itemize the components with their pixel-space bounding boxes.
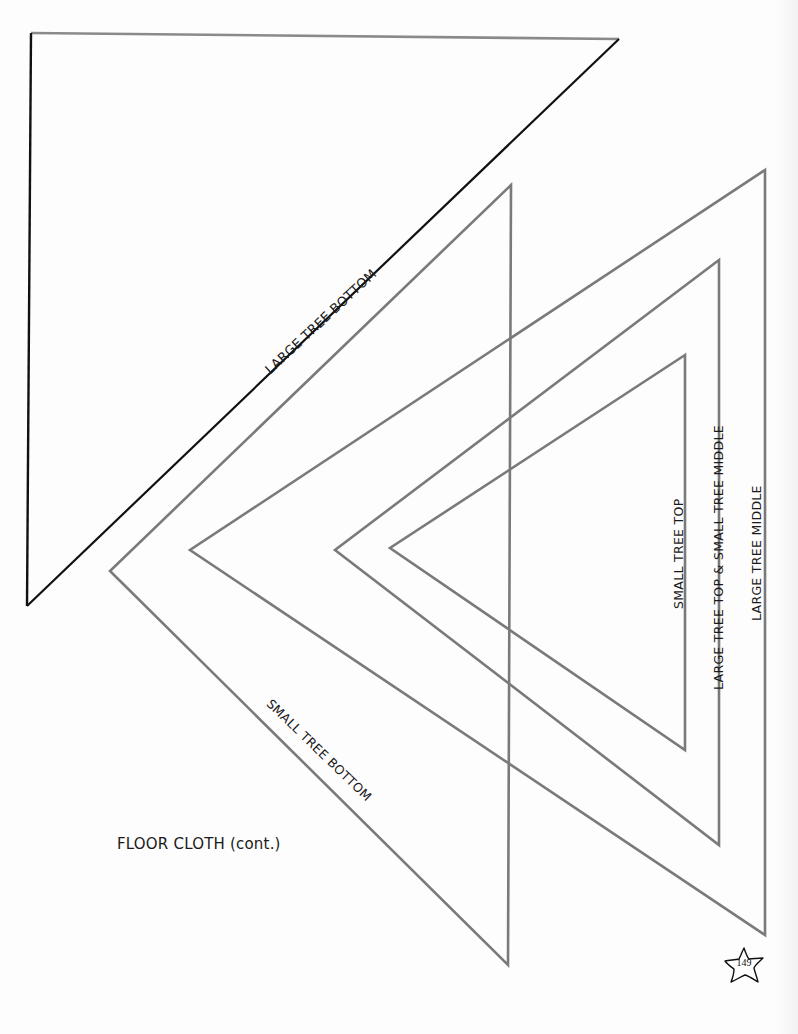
page-number-badge: 149 bbox=[722, 945, 766, 985]
label-large-tree-middle: LARGE TREE MIDDLE bbox=[749, 485, 764, 621]
label-large-tree-top-small-tree-middle: LARGE TREE TOP & SMALL TREE MIDDLE bbox=[711, 425, 726, 690]
page-number: 149 bbox=[722, 957, 766, 968]
small-tree-top-triangle bbox=[390, 355, 685, 750]
page-caption: FLOOR CLOTH (cont.) bbox=[117, 835, 281, 853]
pattern-page: LARGE TREE BOTTOM SMALL TREE BOTTOM LARG… bbox=[0, 0, 798, 1034]
large-tree-top-small-tree-middle-triangle bbox=[335, 260, 719, 845]
label-small-tree-top: SMALL TREE TOP bbox=[671, 499, 686, 609]
